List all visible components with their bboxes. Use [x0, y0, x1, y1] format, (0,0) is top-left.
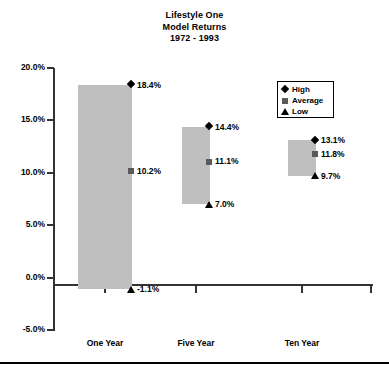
category-label-one-year: One Year — [60, 338, 150, 348]
diamond-marker-icon — [311, 136, 320, 145]
y-axis-tick — [47, 277, 54, 279]
x-axis-tick — [195, 286, 197, 293]
chart-title: Lifestyle One Model Returns 1972 - 1993 — [0, 10, 389, 45]
y-axis-tick-label: -5.0% — [0, 325, 45, 334]
y-axis-tick-label: 5.0% — [0, 220, 45, 229]
y-axis-tick-label-text: 20.0% — [1, 63, 45, 72]
square-marker-icon — [311, 149, 320, 158]
data-label-low-five-year: 7.0% — [215, 200, 234, 209]
y-axis-tick-label-text: -5.0% — [1, 325, 45, 334]
y-axis-tick — [47, 224, 54, 226]
data-label-average-one-year: 10.2% — [137, 167, 161, 176]
legend-item-high[interactable]: High — [281, 84, 333, 95]
x-axis-tick — [301, 286, 303, 293]
data-label-average-ten-year: 11.8% — [321, 150, 345, 159]
diamond-marker-icon — [127, 80, 136, 89]
data-label-low-one-year: -1.1% — [137, 285, 159, 294]
y-axis-tick-label-text: 0.0% — [1, 273, 45, 282]
y-axis-tick — [47, 67, 54, 69]
category-label-five-year: Five Year — [151, 338, 241, 348]
y-axis-tick — [47, 119, 54, 121]
data-label-high-five-year: 14.4% — [215, 123, 239, 132]
data-label-low-ten-year: 9.7% — [321, 172, 340, 181]
y-axis-tick-label: 10.0% — [0, 168, 45, 177]
y-axis-tick-label-text: 15.0% — [1, 115, 45, 124]
square-marker-icon — [127, 166, 136, 175]
chart-title-line-1: Lifestyle One — [0, 10, 389, 22]
x-axis-tick — [370, 286, 372, 293]
y-axis-tick — [47, 329, 54, 331]
bar-one-year — [78, 85, 132, 289]
legend-label-low: Low — [292, 107, 308, 116]
chart-legend: High Average Low — [277, 81, 334, 118]
triangle-marker-icon — [127, 285, 136, 294]
legend-item-low[interactable]: Low — [281, 106, 333, 117]
square-marker-icon — [281, 95, 290, 106]
legend-label-high: High — [292, 85, 310, 94]
data-label-high-one-year: 18.4% — [137, 81, 161, 90]
legend-label-average: Average — [292, 96, 323, 105]
y-axis-tick — [47, 172, 54, 174]
data-label-average-five-year: 11.1% — [215, 157, 239, 166]
y-axis-tick-label: 20.0% — [0, 63, 45, 72]
square-marker-icon — [205, 157, 214, 166]
chart-title-line-2: Model Returns — [0, 22, 389, 34]
y-axis-tick-label-text: 10.0% — [1, 168, 45, 177]
y-axis-tick-label-text: 5.0% — [1, 220, 45, 229]
diamond-marker-icon — [281, 84, 290, 95]
y-axis-line — [53, 68, 55, 331]
triangle-marker-icon — [281, 106, 290, 117]
triangle-marker-icon — [205, 200, 214, 209]
chart-title-line-3: 1972 - 1993 — [0, 33, 389, 45]
y-axis-tick-label: 0.0% — [0, 273, 45, 282]
data-label-high-ten-year: 13.1% — [321, 136, 345, 145]
y-axis-tick-label: 15.0% — [0, 115, 45, 124]
category-label-ten-year: Ten Year — [257, 338, 347, 348]
triangle-marker-icon — [311, 171, 320, 180]
footer-divider — [0, 362, 389, 364]
legend-item-average[interactable]: Average — [281, 95, 333, 106]
diamond-marker-icon — [205, 122, 214, 131]
